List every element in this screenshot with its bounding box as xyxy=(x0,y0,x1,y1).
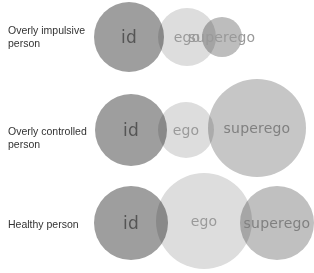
label-line: person xyxy=(8,138,87,151)
row-label-controlled: Overly controlled person xyxy=(8,125,87,151)
label-line: Overly controlled xyxy=(8,125,87,138)
label-line: person xyxy=(8,37,85,50)
label-line: Overly impulsive xyxy=(8,24,85,37)
row-label-healthy: Healthy person xyxy=(8,218,79,231)
circle-label-superego: superego xyxy=(224,120,291,136)
circle-label-id: id xyxy=(121,27,137,47)
row-label-impulsive: Overly impulsive person xyxy=(8,24,85,50)
circle-label-ego: ego xyxy=(191,213,218,229)
circle-label-superego: superego xyxy=(244,215,311,231)
circle-label-ego: ego xyxy=(173,122,200,138)
circle-label-superego: superego xyxy=(189,29,256,45)
circle-label-id: id xyxy=(123,120,139,140)
circle-label-id: id xyxy=(123,213,139,233)
label-line: Healthy person xyxy=(8,218,79,231)
